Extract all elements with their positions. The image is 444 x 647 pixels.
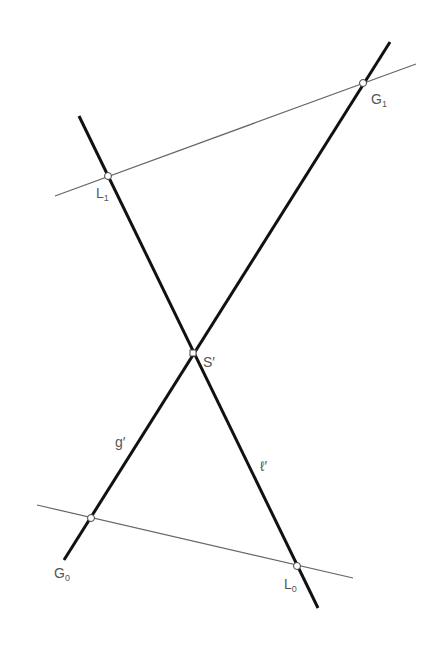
label-L0: L0 [284,576,297,594]
label-S-prime: S′ [203,354,215,370]
label-g-prime: g′ [115,434,126,450]
label-G1: G1 [371,91,387,109]
point-L0 [294,563,301,570]
heavy-line-l-prime [79,116,318,608]
point-G1 [360,80,367,87]
label-G0: G0 [54,565,70,583]
point-L1 [105,173,112,180]
label-l-prime: ℓ′ [260,458,268,474]
label-L1: L1 [96,185,109,203]
thin-line-G0-L0 [37,505,353,578]
diagram-canvas: G1 L1 S′ g′ ℓ′ G0 L0 [0,0,444,647]
point-G0 [88,515,95,522]
heavy-line-g-prime [64,42,390,560]
point-S [190,350,196,356]
